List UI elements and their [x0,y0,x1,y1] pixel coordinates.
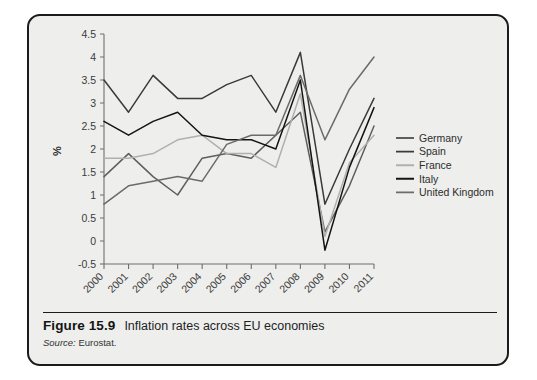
series-line-united-kingdom [104,57,374,204]
x-tick-label: 2006 [228,270,253,295]
x-tick-label: 2007 [252,270,277,295]
y-tick-label: 3 [90,97,96,109]
x-axis-ticks: 2000200120022003200420052006200720082009… [80,264,375,295]
legend-label-united-kingdom: United Kingdom [419,186,494,198]
inflation-line-chart: 4.543.532.521.510.50-0.5 200020012002200… [29,16,509,308]
axes-group [104,34,374,264]
series-line-italy [104,80,374,250]
y-tick-label: 1 [90,189,96,201]
legend-label-spain: Spain [419,145,446,157]
series-line-spain [104,52,374,204]
source-value: Eurostat. [78,337,116,348]
y-tick-label: 0 [90,235,96,247]
y-tick-label: 2.5 [81,120,96,132]
series-group [104,52,374,250]
x-tick-label: 2000 [80,270,105,295]
legend-label-italy: Italy [419,173,439,185]
x-tick-label: 2009 [301,270,326,295]
y-axis-ticks: 4.543.532.521.510.50-0.5 [78,28,104,270]
y-tick-label: 1.5 [81,166,96,178]
y-tick-label: 4.5 [81,28,96,40]
x-tick-label: 2002 [130,270,155,295]
series-line-germany [104,112,374,232]
y-tick-label: 3.5 [81,74,96,86]
y-tick-label: 0.5 [81,212,96,224]
x-tick-label: 2008 [277,270,302,295]
y-axis-title: % [51,146,63,156]
x-tick-label: 2010 [326,270,351,295]
caption-line: Figure 15.9 Inflation rates across EU ec… [43,318,497,333]
x-tick-label: 2005 [203,270,228,295]
figure-panel: 4.543.532.521.510.50-0.5 200020012002200… [27,14,509,366]
chart-area: 4.543.532.521.510.50-0.5 200020012002200… [29,16,509,308]
source-line: Source: Eurostat. [43,337,497,348]
caption-block: Figure 15.9 Inflation rates across EU ec… [43,318,497,348]
y-tick-label: -0.5 [78,258,96,270]
figure-title: Inflation rates across EU economies [124,319,324,333]
x-tick-label: 2001 [105,270,130,295]
y-tick-label: 2 [90,143,96,155]
caption-divider [43,312,497,313]
x-tick-label: 2003 [154,270,179,295]
x-tick-label: 2011 [351,270,376,295]
legend-label-france: France [419,159,452,171]
source-label: Source: [43,337,76,348]
figure-number: Figure 15.9 [43,318,115,333]
y-tick-label: 4 [90,51,96,63]
x-tick-label: 2004 [179,270,204,295]
legend-label-germany: Germany [419,132,463,144]
chart-legend: GermanySpainFranceItalyUnited Kingdom [396,132,494,198]
